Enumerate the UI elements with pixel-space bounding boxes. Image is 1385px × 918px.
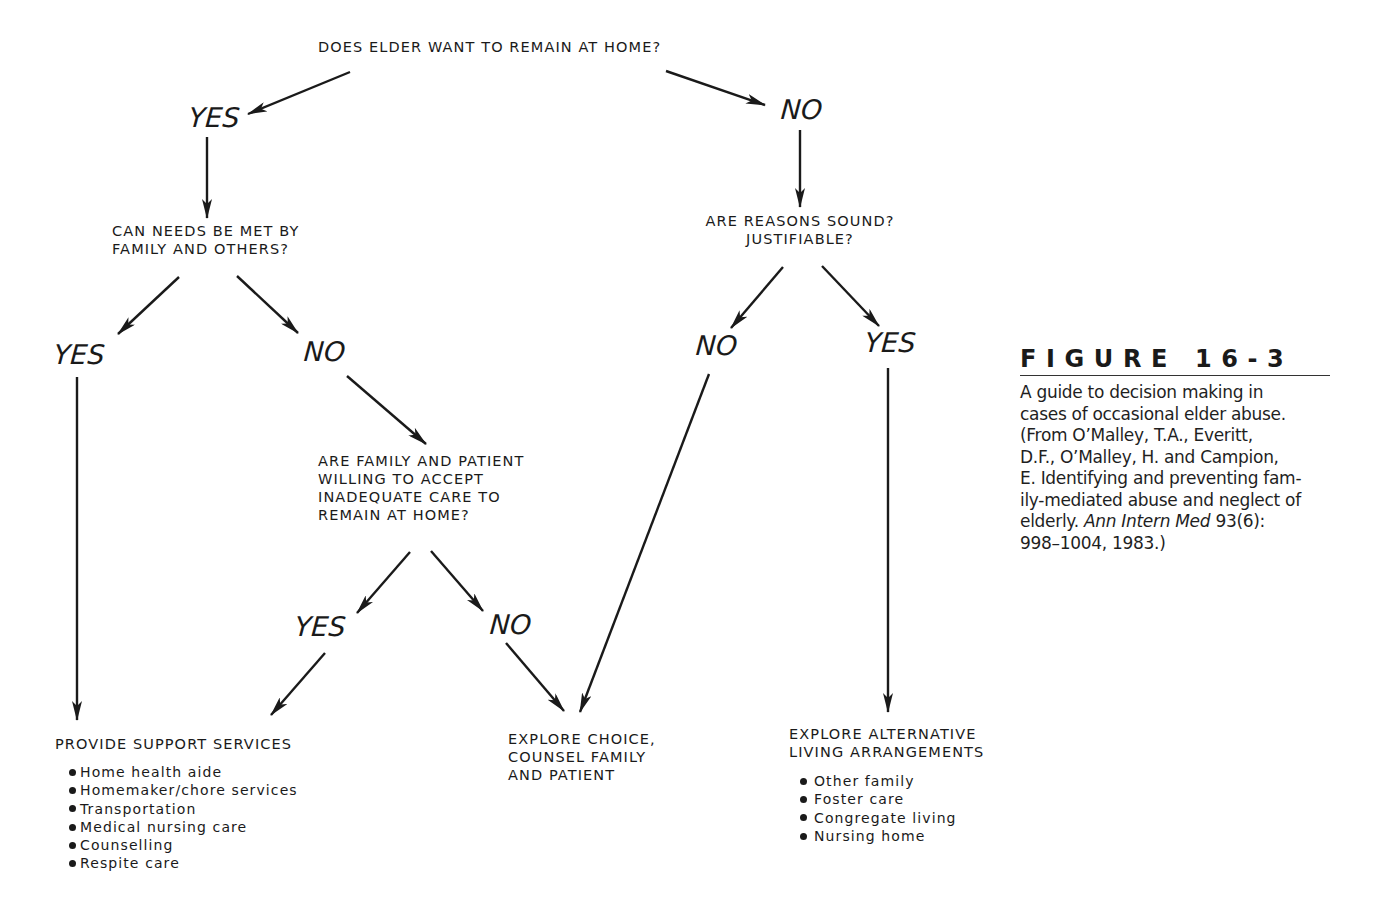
arrow-accept-no-to-choice [506, 643, 564, 711]
needs-yes-label: YES [53, 340, 106, 370]
alternative-living-list: Other family Foster care Congregate livi… [800, 772, 957, 845]
root-yes-label: YES [188, 103, 241, 133]
root-no-label: NO [780, 95, 824, 125]
bullet-icon [800, 814, 807, 821]
bullet-icon [800, 796, 807, 803]
reasons-yes-label: YES [864, 328, 917, 358]
needs-met-question: CAN NEEDS BE MET BY FAMILY AND OTHERS? [112, 222, 299, 258]
list-item: Congregate living [800, 809, 957, 827]
figure-label: FIGURE 16-3 [1020, 345, 1330, 376]
support-services-title: PROVIDE SUPPORT SERVICES [55, 735, 292, 753]
bullet-icon [69, 860, 76, 867]
root-question: DOES ELDER WANT TO REMAIN AT HOME? [318, 38, 661, 56]
figure-caption-text: A guide to decision making in cases of o… [1020, 382, 1330, 554]
bullet-icon [69, 787, 76, 794]
list-item: Other family [800, 772, 957, 790]
arrow-reasons-to-no [731, 267, 783, 328]
arrow-reasons-no-to-choice [580, 374, 709, 712]
arrow-accept-yes-to-support [271, 653, 325, 715]
alternative-living-title: EXPLORE ALTERNATIVE LIVING ARRANGEMENTS [789, 725, 984, 761]
list-item: Homemaker/chore services [69, 781, 298, 799]
support-services-list: Home health aide Homemaker/chore service… [69, 763, 298, 873]
arrow-needs-no-to-accept [347, 376, 426, 444]
explore-choice-title: EXPLORE CHOICE, COUNSEL FAMILY AND PATIE… [508, 730, 656, 784]
needs-no-label: NO [303, 337, 347, 367]
figure-caption: FIGURE 16-3 A guide to decision making i… [1020, 345, 1330, 554]
bullet-icon [800, 778, 807, 785]
bullet-icon [69, 824, 76, 831]
bullet-icon [69, 805, 76, 812]
list-item: Foster care [800, 790, 957, 808]
bullet-icon [69, 769, 76, 776]
list-item: Respite care [69, 854, 298, 872]
arrow-root-to-yes [248, 72, 350, 114]
accept-yes-label: YES [294, 612, 347, 642]
list-item: Counselling [69, 836, 298, 854]
reasons-no-label: NO [695, 331, 739, 361]
accept-inadequate-question: ARE FAMILY AND PATIENT WILLING TO ACCEPT… [318, 452, 524, 524]
list-item: Home health aide [69, 763, 298, 781]
list-item: Medical nursing care [69, 818, 298, 836]
list-item: Transportation [69, 800, 298, 818]
journal-name: Ann Intern Med [1084, 511, 1210, 531]
arrow-root-to-no [666, 71, 765, 105]
list-item: Nursing home [800, 827, 957, 845]
reasons-sound-question: ARE REASONS SOUND? JUSTIFIABLE? [700, 212, 900, 248]
arrow-needs-to-yes [118, 277, 179, 334]
bullet-icon [800, 833, 807, 840]
arrow-needs-to-no [237, 276, 298, 333]
arrow-accept-to-no [431, 551, 483, 611]
flowchart-figure: DOES ELDER WANT TO REMAIN AT HOME? CAN N… [0, 0, 1385, 918]
accept-no-label: NO [489, 610, 533, 640]
bullet-icon [69, 842, 76, 849]
arrow-accept-to-yes [357, 552, 410, 613]
arrow-reasons-to-yes [822, 266, 879, 326]
